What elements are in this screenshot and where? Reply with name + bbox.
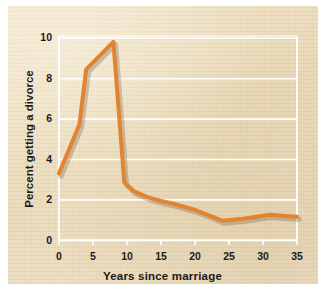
y-axis-label-wrap: Percent getting a divorce bbox=[20, 36, 38, 241]
x-tick-label: 30 bbox=[252, 250, 274, 262]
x-tick-label: 5 bbox=[82, 250, 104, 262]
series-line-shadow bbox=[61, 44, 299, 223]
x-axis-label: Years since marriage bbox=[0, 270, 325, 282]
chart-figure: 10 8 6 4 2 0 0 5 10 15 20 25 30 35 Years… bbox=[0, 0, 325, 296]
x-tick-label: 15 bbox=[150, 250, 172, 262]
x-tick-label: 0 bbox=[48, 250, 70, 262]
x-tick-label: 10 bbox=[116, 250, 138, 262]
x-tick-label: 20 bbox=[184, 250, 206, 262]
y-axis-label: Percent getting a divorce bbox=[23, 70, 35, 207]
x-tick-label: 35 bbox=[286, 250, 308, 262]
x-tick-label: 25 bbox=[218, 250, 240, 262]
